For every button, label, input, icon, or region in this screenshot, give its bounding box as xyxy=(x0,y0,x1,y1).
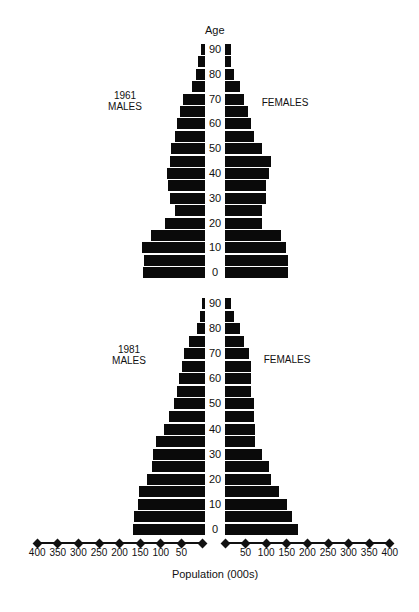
male-bar-age-85 xyxy=(200,311,205,322)
year-label: 1981 xyxy=(104,344,154,355)
female-bar-age-70 xyxy=(225,348,249,359)
age-tick-label: 30 xyxy=(203,448,227,460)
female-bar-age-10 xyxy=(225,499,287,510)
male-bar-age-55 xyxy=(177,386,205,397)
age-tick-label: 50 xyxy=(203,397,227,409)
age-tick-label: 70 xyxy=(203,347,227,359)
male-bar-age-35 xyxy=(156,436,205,447)
pyramid-1981: 1981 MALES FEMALES 9080706050403020100 xyxy=(0,0,419,545)
age-tick-label: 90 xyxy=(203,297,227,309)
male-bar-age-50 xyxy=(174,398,205,409)
male-bar-age-70 xyxy=(184,348,205,359)
female-bar-age-60 xyxy=(225,373,251,384)
female-bar-age-15 xyxy=(225,486,279,497)
female-bar-age-80 xyxy=(225,323,240,334)
female-bar-age-5 xyxy=(225,511,292,522)
male-bar-age-5 xyxy=(134,511,205,522)
male-bar-age-25 xyxy=(152,461,205,472)
population-axis-title: Population (000s) xyxy=(0,568,419,580)
female-bar-age-55 xyxy=(225,386,251,397)
male-bar-age-40 xyxy=(164,424,205,435)
male-bar-age-60 xyxy=(179,373,205,384)
males-label-1981: 1981 MALES xyxy=(104,344,154,366)
age-tick-label: 20 xyxy=(203,473,227,485)
age-tick-label: 60 xyxy=(203,372,227,384)
sex-label: MALES xyxy=(104,355,154,366)
age-tick-label: 0 xyxy=(203,523,227,535)
female-bar-age-50 xyxy=(225,398,254,409)
age-tick-label: 10 xyxy=(203,498,227,510)
age-tick-label: 80 xyxy=(203,322,227,334)
female-bar-age-20 xyxy=(225,474,271,485)
female-bar-age-0 xyxy=(225,524,298,535)
sex-label: FEMALES xyxy=(262,354,312,365)
male-bar-age-45 xyxy=(169,411,205,422)
female-bar-age-30 xyxy=(225,449,262,460)
male-bar-age-0 xyxy=(133,524,205,535)
male-bar-age-30 xyxy=(153,449,205,460)
male-bar-age-10 xyxy=(138,499,205,510)
male-bar-age-65 xyxy=(182,361,205,372)
female-bar-age-25 xyxy=(225,461,269,472)
female-bar-age-75 xyxy=(225,336,244,347)
age-tick-label: 40 xyxy=(203,423,227,435)
female-bar-age-40 xyxy=(225,424,255,435)
axis-tick-label: 50 xyxy=(166,547,196,558)
axis-tick-label: 400 xyxy=(375,547,405,558)
females-label-1981: FEMALES xyxy=(262,354,312,365)
male-bar-age-20 xyxy=(147,474,205,485)
male-bar-age-75 xyxy=(189,336,205,347)
female-bar-age-65 xyxy=(225,361,251,372)
female-bar-age-45 xyxy=(225,411,254,422)
female-bar-age-35 xyxy=(225,436,255,447)
female-bar-age-85 xyxy=(225,311,234,322)
male-bar-age-15 xyxy=(139,486,205,497)
